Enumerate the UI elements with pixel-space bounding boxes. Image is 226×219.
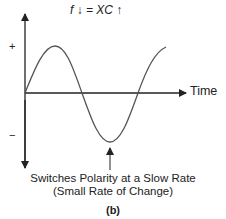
sine-wave	[25, 46, 166, 142]
negative-polarity-label: −	[9, 129, 15, 141]
time-axis-label: Time	[190, 84, 217, 98]
annotation-text-line2: (Small Rate of Change)	[0, 185, 226, 197]
frequency-reactance-relation: f ↓ = XC ↑	[70, 3, 122, 17]
panel-label: (b)	[0, 204, 226, 216]
annotation-text-line1: Switches Polarity at a Slow Rate	[0, 172, 226, 184]
positive-polarity-label: +	[9, 40, 15, 52]
diagram-panel-b: f ↓ = XC ↑ + − Time Switches Polarity at…	[0, 0, 226, 219]
